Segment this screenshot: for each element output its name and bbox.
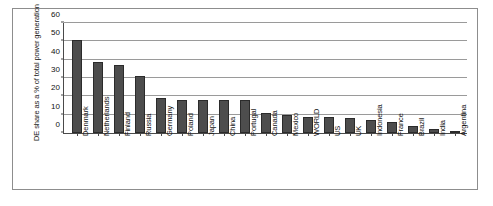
x-tick-label: Germany xyxy=(165,106,174,136)
x-tick-label: Brazil xyxy=(417,118,426,136)
bar-slot xyxy=(318,23,339,133)
x-label-slot: Denmark xyxy=(66,136,87,188)
y-tick-label: 60 xyxy=(51,10,60,19)
x-label-slot: WORLD xyxy=(297,136,318,188)
y-tick-label: 20 xyxy=(51,83,60,92)
x-label-slot: Japan xyxy=(192,136,213,188)
x-tick-label: Mexico xyxy=(291,113,300,136)
x-tick-label: China xyxy=(228,117,237,136)
bar-slot xyxy=(402,23,423,133)
x-label-slot: Mexico xyxy=(276,136,297,188)
x-label-slot: Portugal xyxy=(234,136,255,188)
x-tick-label: Argentina xyxy=(459,105,468,136)
x-tick-label: WORLD xyxy=(312,109,321,136)
x-label-slot: Indonesia xyxy=(360,136,381,188)
x-label-slot: Canada xyxy=(255,136,276,188)
x-label-slot: France xyxy=(381,136,402,188)
bar-slot xyxy=(423,23,444,133)
x-tick-label: Finland xyxy=(123,112,132,136)
x-tick-label: Portugal xyxy=(249,109,258,136)
x-tick-label: UK xyxy=(354,126,363,136)
y-tick-label: 10 xyxy=(51,101,60,110)
x-tick-label: US xyxy=(333,126,342,136)
x-tick-label: Russia xyxy=(144,114,153,136)
x-label-slot: Argentina xyxy=(444,136,465,188)
x-label-slot: Germany xyxy=(150,136,171,188)
x-label-slot: India xyxy=(423,136,444,188)
x-axis-labels: DenmarkNetherlandsFinlandRussiaGermanyPo… xyxy=(63,136,467,188)
bar-slot xyxy=(339,23,360,133)
x-tick-label: India xyxy=(438,120,447,136)
x-tick-label: Indonesia xyxy=(375,104,384,136)
x-label-slot: US xyxy=(318,136,339,188)
x-label-slot: UK xyxy=(339,136,360,188)
y-tick-label: 0 xyxy=(56,120,60,129)
x-tick-label: Canada xyxy=(270,110,279,136)
x-label-slot: Russia xyxy=(129,136,150,188)
chart-figure: DE share as a % of total power generatio… xyxy=(12,8,478,190)
x-tick-label: France xyxy=(396,113,405,136)
x-tick-label: Denmark xyxy=(81,106,90,136)
x-tick-label: Japan xyxy=(207,116,216,136)
x-label-slot: Poland xyxy=(171,136,192,188)
x-label-slot: Netherlands xyxy=(87,136,108,188)
y-tick-label: 50 xyxy=(51,28,60,37)
x-label-slot: Finland xyxy=(108,136,129,188)
y-tick-label: 40 xyxy=(51,46,60,55)
x-label-slot: China xyxy=(213,136,234,188)
x-label-slot: Brazil xyxy=(402,136,423,188)
x-tick-label: Netherlands xyxy=(102,97,111,136)
y-axis-title: DE share as a % of total power generatio… xyxy=(32,23,44,141)
y-tick-label: 30 xyxy=(51,65,60,74)
x-tick-label: Poland xyxy=(186,113,195,136)
